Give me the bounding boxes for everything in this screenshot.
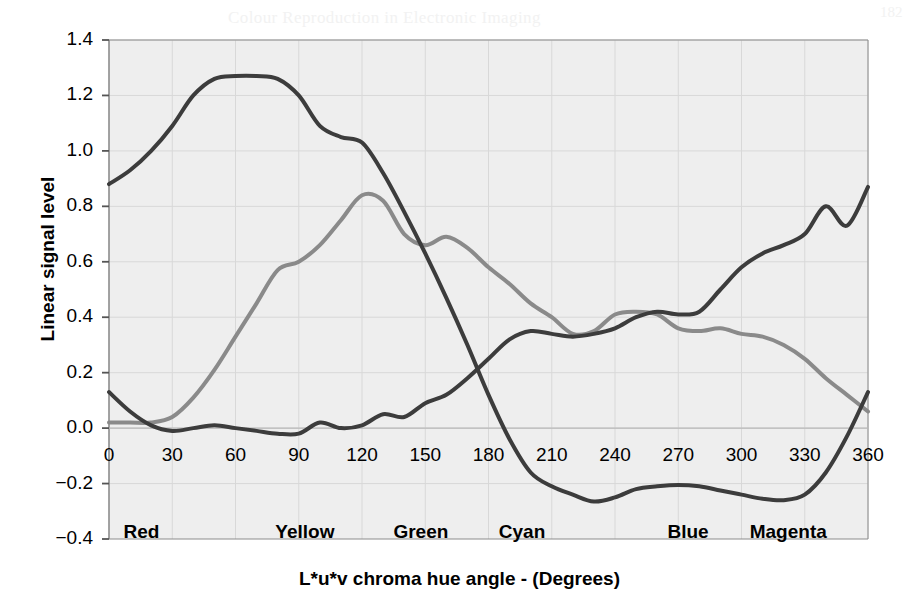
y-tick-label: 0.0	[37, 416, 93, 438]
x-axis-title: L*u*v chroma hue angle - (Degrees)	[0, 568, 919, 590]
hue-annotation-red: Red	[124, 521, 160, 543]
x-tick-label: 210	[522, 444, 582, 466]
x-tick-label: 270	[648, 444, 708, 466]
y-tick-label: 1.2	[37, 83, 93, 105]
hue-annotation-magenta: Magenta	[750, 521, 827, 543]
hue-annotation-green: Green	[393, 521, 448, 543]
hue-annotation-blue: Blue	[667, 521, 708, 543]
x-tick-label: 180	[459, 444, 519, 466]
y-axis-title: Linear signal level	[37, 139, 59, 379]
x-tick-label: 360	[838, 444, 898, 466]
y-tick-label: −0.2	[37, 472, 93, 494]
x-tick-label: 240	[585, 444, 645, 466]
hue-annotation-cyan: Cyan	[499, 521, 545, 543]
x-tick-label: 120	[332, 444, 392, 466]
x-tick-label: 90	[269, 444, 329, 466]
x-tick-label: 60	[206, 444, 266, 466]
x-tick-label: 300	[712, 444, 772, 466]
hue-annotation-yellow: Yellow	[275, 521, 334, 543]
x-tick-label: 330	[775, 444, 835, 466]
y-tick-label: 1.4	[37, 28, 93, 50]
x-tick-label: 0	[79, 444, 139, 466]
chart-figure: Colour Reproduction in Electronic Imagin…	[0, 0, 919, 613]
x-tick-label: 150	[395, 444, 455, 466]
y-tick-label: −0.4	[37, 527, 93, 549]
x-tick-label: 30	[142, 444, 202, 466]
